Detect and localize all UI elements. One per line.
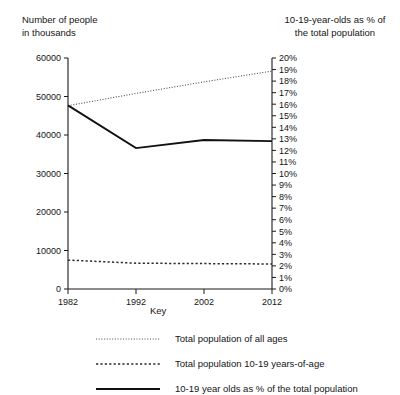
y-right-tick-label: 20% (279, 53, 297, 63)
y-left-tick-label: 20000 (36, 207, 61, 217)
y-right-tick-label: 3% (279, 250, 292, 260)
series-line-total-10-19 (68, 260, 272, 264)
x-tick-label: 1992 (126, 297, 146, 307)
y-right-tick-label: 5% (279, 227, 292, 237)
legend-swatch-dashed-line (96, 359, 160, 369)
series-group (68, 71, 272, 264)
legend-item-pct-10-19: 10-19 year olds as % of the total popula… (96, 376, 396, 395)
legend-label-pct-10-19: 10-19 year olds as % of the total popula… (160, 383, 358, 394)
y-right-tick-label: 10% (279, 169, 297, 179)
y-right-tick-label: 6% (279, 215, 292, 225)
y-left-tick-label: 50000 (36, 92, 61, 102)
legend-swatch-solid-line (96, 384, 160, 394)
y-right-tick-label: 14% (279, 123, 297, 133)
y-left-tick-label: 10000 (36, 246, 61, 256)
y-right-tick-label: 4% (279, 238, 292, 248)
x-tick-label: 2012 (262, 297, 282, 307)
legend-swatch-dotted-line (96, 334, 160, 344)
y-right-tick-label: 1% (279, 273, 292, 283)
chart-legend: Total population of all ages Total popul… (96, 326, 396, 395)
series-line-pct-10-19 (68, 105, 272, 148)
y-left-tick-label: 40000 (36, 130, 61, 140)
x-tick-label: 2002 (194, 297, 214, 307)
chart-figure: Number of people in thousands 10-19-year… (0, 0, 400, 395)
y-right-tick-label: 12% (279, 146, 297, 156)
y-right-tick-label: 2% (279, 261, 292, 271)
y-right-tick-label: 9% (279, 180, 292, 190)
key-title: Key (150, 305, 166, 316)
y-left-tick-label: 0 (56, 284, 61, 294)
y-left-tick-label: 60000 (36, 53, 61, 63)
y-right-tick-label: 17% (279, 88, 297, 98)
x-axis: 1982199220022012 (58, 289, 282, 307)
legend-item-total-10-19: Total population 10-19 years-of-age (96, 351, 396, 376)
y-right-tick-label: 13% (279, 134, 297, 144)
y-left-tick-label: 30000 (36, 169, 61, 179)
y-right-tick-label: 11% (279, 157, 296, 167)
y-right-tick-label: 18% (279, 76, 297, 86)
y-axis-left: 0100002000030000400005000060000 (36, 53, 68, 294)
y-right-tick-label: 19% (279, 65, 297, 75)
legend-label-total-10-19: Total population 10-19 years-of-age (160, 358, 324, 369)
series-line-total-all-ages (68, 71, 272, 106)
legend-label-total-all-ages: Total population of all ages (160, 333, 288, 344)
x-tick-label: 1982 (58, 297, 78, 307)
y-right-tick-label: 7% (279, 203, 292, 213)
y-axis-right: 0%1%2%3%4%5%6%7%8%9%10%11%12%13%14%15%16… (272, 53, 297, 294)
y-right-tick-label: 0% (279, 284, 292, 294)
y-right-tick-label: 15% (279, 111, 297, 121)
y-right-tick-label: 16% (279, 100, 297, 110)
legend-item-total-all-ages: Total population of all ages (96, 326, 396, 351)
y-right-tick-label: 8% (279, 192, 292, 202)
